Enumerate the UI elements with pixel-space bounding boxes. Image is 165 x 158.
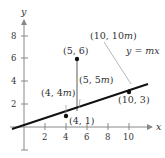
svg-text:(4, 4m): (4, 4m) — [41, 87, 76, 98]
svg-text:(5, 5m): (5, 5m) — [79, 74, 114, 85]
point-4-1 — [64, 114, 68, 118]
x-axis-label: x — [156, 121, 162, 132]
x-tick-10: 10 — [123, 132, 134, 142]
y-tick-6: 6 — [11, 53, 16, 63]
diagram-canvas: y x 2 4 6 8 2 4 6 8 10 (5, 6) (4, 1) (1 — [0, 0, 165, 158]
equation-label: y = mx — [124, 43, 164, 57]
y-axis-label: y — [20, 6, 27, 17]
svg-text:(10, 10m): (10, 10m) — [90, 30, 137, 41]
label-5-5m: (5, 5m) — [79, 74, 114, 85]
point-5-6 — [75, 57, 79, 61]
x-tick-2: 2 — [42, 132, 47, 142]
y-tick-8: 8 — [11, 31, 16, 41]
x-tick-4: 4 — [63, 132, 68, 142]
y-tick-4: 4 — [11, 76, 16, 86]
label-10-3: (10, 3) — [118, 94, 150, 105]
x-tick-6: 6 — [84, 132, 89, 142]
x-tick-8: 8 — [105, 132, 110, 142]
label-4-1: (4, 1) — [69, 115, 95, 126]
label-10-10m: (10, 10m) — [90, 30, 137, 41]
label-5-6: (5, 6) — [63, 45, 89, 56]
label-4-4m: (4, 4m) — [41, 87, 76, 98]
svg-text:y = mx: y = mx — [125, 45, 160, 56]
y-tick-2: 2 — [11, 99, 16, 109]
